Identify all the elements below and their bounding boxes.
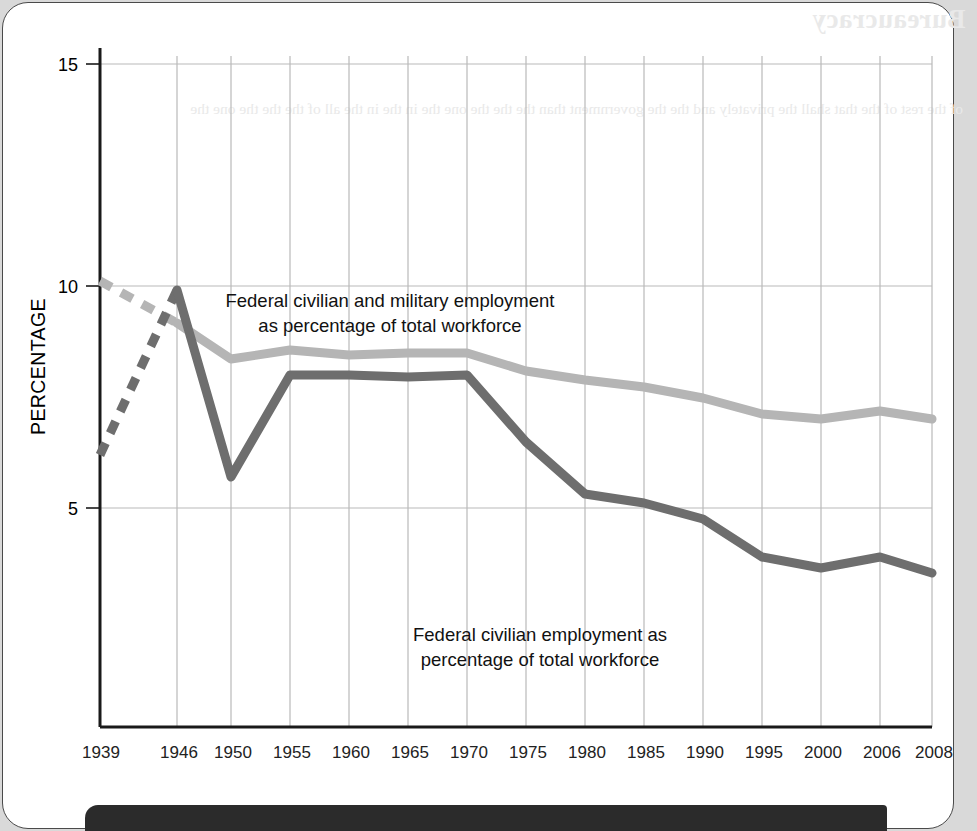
x-tick-1985: 1985 xyxy=(627,743,665,762)
x-tick-1955: 1955 xyxy=(273,743,311,762)
x-tick-1965: 1965 xyxy=(391,743,429,762)
annotation-upper: Federal civilian and military employment… xyxy=(225,290,554,336)
x-tick-1950: 1950 xyxy=(214,743,252,762)
x-tick-1939: 1939 xyxy=(82,743,120,762)
screenshot-root: Bureaucracy of the rest of the that shal… xyxy=(0,0,977,831)
y-tick-labels: 15 10 5 xyxy=(58,55,78,519)
x-tick-2008: 2008 xyxy=(915,743,953,762)
y-tick-15: 15 xyxy=(58,55,78,75)
x-tick-2000: 2000 xyxy=(804,743,842,762)
annotation-lower-line2: percentage of total workforce xyxy=(421,649,660,670)
x-tick-1970: 1970 xyxy=(450,743,488,762)
x-tick-1975: 1975 xyxy=(509,743,547,762)
line-chart: 15 10 5 Federal civilian and military em… xyxy=(0,0,977,790)
y-tick-5: 5 xyxy=(68,499,78,519)
annotation-lower: Federal civilian employment as percentag… xyxy=(413,624,667,670)
annotation-upper-line1: Federal civilian and military employment xyxy=(225,290,554,311)
annotation-upper-line2: as percentage of total workforce xyxy=(258,315,521,336)
x-tick-1990: 1990 xyxy=(686,743,724,762)
series-civilian-military-dashed-segment xyxy=(100,290,177,455)
caption-bar xyxy=(85,805,887,831)
y-tick-10: 10 xyxy=(58,277,78,297)
y-axis-title: PERCENTAGE xyxy=(27,267,50,467)
x-tick-labels: 1939 1946 1950 1955 1960 1965 1970 1975 … xyxy=(82,743,953,762)
chart-svg: 15 10 5 Federal civilian and military em… xyxy=(0,0,977,790)
x-tick-1995: 1995 xyxy=(745,743,783,762)
x-tick-1960: 1960 xyxy=(332,743,370,762)
annotation-lower-line1: Federal civilian employment as xyxy=(413,624,667,645)
x-tick-1946: 1946 xyxy=(160,743,198,762)
x-tick-2006: 2006 xyxy=(863,743,901,762)
x-tick-1980: 1980 xyxy=(568,743,606,762)
